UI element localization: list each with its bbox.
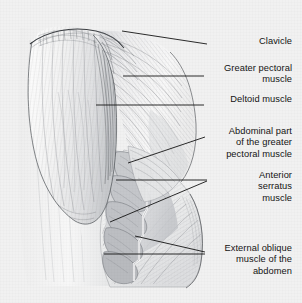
label-abdominal-part-of-greater-pectoral-muscle: Abdominal part of the greater pectoral m…	[226, 126, 292, 160]
label-deltoid-muscle: Deltoid muscle	[230, 94, 292, 105]
label-greater-pectoral-muscle: Greater pectoral muscle	[224, 63, 292, 86]
leader-clavicle	[122, 31, 207, 44]
leader-serratus-lower	[110, 181, 207, 222]
leader-external-oblique-upper	[135, 236, 205, 252]
label-anterior-serratus-muscle: Anterior serratus muscle	[258, 170, 292, 204]
anatomy-figure: Clavicle Greater pectoral muscle Deltoid…	[0, 0, 302, 303]
leader-abdominal-part	[128, 137, 205, 163]
label-clavicle: Clavicle	[259, 36, 292, 47]
label-external-oblique-muscle-of-the-abdomen: External oblique muscle of the abdomen	[225, 243, 292, 277]
